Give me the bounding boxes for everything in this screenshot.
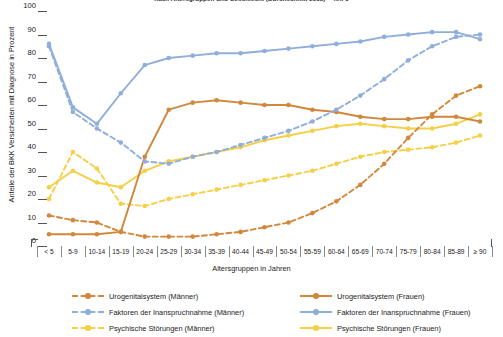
data-point: [262, 178, 267, 183]
data-point: [238, 100, 243, 105]
data-point: [310, 129, 315, 134]
series-line: [49, 86, 480, 236]
data-point: [454, 140, 459, 145]
data-point: [430, 30, 435, 35]
data-point: [142, 154, 147, 159]
x-tick-separator: [372, 246, 373, 257]
data-point: [166, 107, 171, 112]
data-point: [334, 199, 339, 204]
data-point: [119, 91, 124, 96]
x-tick-separator: [396, 246, 397, 257]
data-point: [430, 126, 435, 131]
series-line: [49, 114, 480, 187]
data-point: [286, 46, 291, 51]
data-point: [382, 161, 387, 166]
data-point: [406, 117, 411, 122]
data-point: [71, 105, 76, 110]
data-point: [430, 145, 435, 150]
y-tick-label: 60: [10, 96, 36, 104]
chart-container: nach Altersgruppen und Geschlecht (Durch…: [0, 0, 503, 337]
data-point: [478, 133, 483, 138]
data-point: [454, 93, 459, 98]
data-point: [71, 110, 76, 115]
legend-label: Faktoren der Inanspruchnahme (Frauen): [337, 308, 471, 317]
legend-swatch-icon: [72, 323, 104, 333]
data-point: [478, 84, 483, 89]
data-point: [238, 183, 243, 188]
data-point: [286, 129, 291, 134]
legend-item[interactable]: Urogenitalsystem (Frauen): [300, 288, 503, 304]
legend-item[interactable]: Faktoren der Inanspruchnahme (Männer): [72, 304, 302, 320]
data-point: [238, 51, 243, 56]
data-point: [478, 119, 483, 124]
data-point: [286, 220, 291, 225]
data-point: [262, 49, 267, 54]
data-point: [358, 154, 363, 159]
data-point: [119, 185, 124, 190]
data-point: [190, 192, 195, 197]
axis-corner-left-vertical: [31, 239, 32, 247]
data-point: [142, 63, 147, 68]
data-point: [95, 180, 100, 185]
y-tick-label: 20: [10, 190, 36, 198]
data-point: [166, 234, 171, 239]
series-line: [49, 35, 480, 164]
data-point: [47, 42, 52, 47]
data-point: [334, 161, 339, 166]
x-tick-label: 75-79: [396, 248, 420, 255]
data-point: [166, 56, 171, 61]
data-point: [95, 166, 100, 171]
legend-item[interactable]: Urogenitalsystem (Männer): [72, 288, 302, 304]
x-tick-separator: [324, 246, 325, 257]
x-tick-label: 65-69: [348, 248, 372, 255]
x-tick-label: 30-34: [181, 248, 205, 255]
x-tick-label: 50-54: [276, 248, 300, 255]
data-point: [358, 122, 363, 127]
data-point: [119, 201, 124, 206]
series-line: [49, 136, 480, 207]
legend-item[interactable]: Psychische Störungen (Männer): [72, 320, 302, 336]
legend-swatch-icon: [72, 307, 104, 317]
y-tick-label: 70: [10, 73, 36, 81]
data-point: [478, 32, 483, 37]
data-point: [119, 140, 124, 145]
series-svg: [37, 11, 492, 246]
x-tick-label: 5-9: [61, 248, 85, 255]
y-tick-label: 30: [10, 167, 36, 175]
legend-label: Faktoren der Inanspruchnahme (Männer): [109, 308, 244, 317]
legend-swatch-icon: [300, 307, 332, 317]
data-point: [310, 44, 315, 49]
x-tick-label: 55-59: [300, 248, 324, 255]
legend-label: Psychische Störungen (Frauen): [337, 324, 441, 333]
legend-item[interactable]: Faktoren der Inanspruchnahme (Frauen): [300, 304, 503, 320]
data-point: [190, 53, 195, 58]
legend-item[interactable]: Psychische Störungen (Frauen): [300, 320, 503, 336]
x-axis-ticks: < 55-910-1415-1920-2425-2930-3435-3940-4…: [37, 246, 492, 264]
data-point: [286, 133, 291, 138]
plot-area: [37, 11, 492, 246]
x-tick-label: < 5: [37, 248, 61, 255]
legend-label: Urogenitalsystem (Frauen): [337, 292, 425, 301]
data-point: [286, 103, 291, 108]
data-point: [238, 230, 243, 235]
data-point: [262, 225, 267, 230]
data-point: [95, 126, 100, 131]
legend-swatch-icon: [300, 323, 332, 333]
data-point: [262, 103, 267, 108]
data-point: [214, 232, 219, 237]
x-tick-separator: [492, 246, 493, 257]
x-tick-label: 80-84: [420, 248, 444, 255]
data-point: [190, 100, 195, 105]
x-tick-label: 45-49: [253, 248, 277, 255]
x-tick-separator: [85, 246, 86, 257]
data-point: [214, 150, 219, 155]
x-tick-label: 85-89: [444, 248, 468, 255]
x-tick-label: 35-39: [205, 248, 229, 255]
data-point: [214, 98, 219, 103]
x-tick-separator: [348, 246, 349, 257]
x-tick-separator: [229, 246, 230, 257]
data-point: [310, 119, 315, 124]
data-point: [382, 150, 387, 155]
legend-column-frauen: Urogenitalsystem (Frauen)Faktoren der In…: [300, 288, 503, 336]
data-point: [334, 107, 339, 112]
